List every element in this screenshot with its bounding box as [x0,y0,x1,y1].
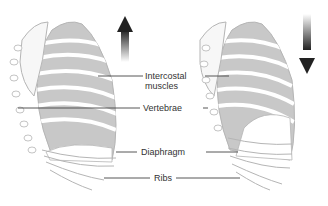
label-diaphragm: Diaphragm [141,147,185,157]
left-rib-cage [10,22,117,190]
inhale-up-arrow-icon [117,16,133,62]
exhale-down-arrow-icon [299,14,315,74]
label-vertebrae: Vertebrae [143,103,182,113]
right-rib-cage [200,22,295,190]
label-intercostal-muscles: Intercostal muscles [145,71,187,91]
label-ribs: Ribs [154,173,172,183]
